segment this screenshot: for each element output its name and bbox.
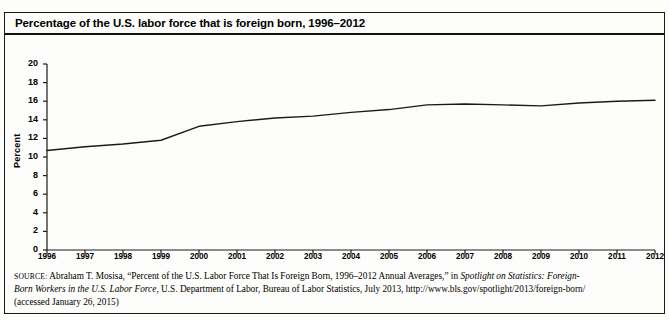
figure-container: Percentage of the U.S. labor force that … xyxy=(0,0,669,320)
x-axis-tick-label: 1998 xyxy=(103,252,143,261)
x-axis-tick-label: 2004 xyxy=(331,252,371,261)
y-axis-tick-label: 20 xyxy=(16,58,38,68)
x-axis-tick-label: 1997 xyxy=(65,252,105,261)
x-axis-tick-label: 2007 xyxy=(445,252,485,261)
source-line1-italic: Spotlight on Statistics: Foreign- xyxy=(460,271,579,281)
source-line2-text: , U.S. Department of Labor, Bureau of La… xyxy=(156,284,585,294)
x-axis-tick-label: 1996 xyxy=(27,252,67,261)
title-bar: Percentage of the U.S. labor force that … xyxy=(5,13,664,35)
y-axis-tick-label: 12 xyxy=(16,132,38,142)
x-axis-tick-label: 2011 xyxy=(597,252,637,261)
x-axis-tick-label: 2006 xyxy=(407,252,447,261)
y-axis-tick-label: 8 xyxy=(16,170,38,180)
page-title: Percentage of the U.S. labor force that … xyxy=(5,17,365,29)
line-chart xyxy=(0,36,669,264)
source-line1-text: Abraham T. Mosisa, “Percent of the U.S. … xyxy=(47,271,460,281)
x-axis-tick-label: 2002 xyxy=(255,252,295,261)
plot-area: Percent 20181614121086420199619971998199… xyxy=(0,36,669,264)
x-axis-tick-label: 2009 xyxy=(521,252,561,261)
y-axis-tick-label: 14 xyxy=(16,114,38,124)
x-axis-tick-label: 2001 xyxy=(217,252,257,261)
source-line2-italic: Born Workers in the U.S. Labor Force xyxy=(14,284,156,294)
x-axis-tick-label: 1999 xyxy=(141,252,181,261)
x-axis-tick-label: 2000 xyxy=(179,252,219,261)
source-note: SOURCE: Abraham T. Mosisa, “Percent of t… xyxy=(14,270,655,310)
source-line3: (accessed January 26, 2015) xyxy=(14,296,655,309)
x-axis-tick-label: 2005 xyxy=(369,252,409,261)
y-axis-tick-label: 18 xyxy=(16,77,38,87)
y-axis-tick-label: 16 xyxy=(16,95,38,105)
y-axis-tick-label: 10 xyxy=(16,151,38,161)
y-axis-tick-label: 2 xyxy=(16,225,38,235)
y-axis-tick-label: 4 xyxy=(16,207,38,217)
x-axis-tick-label: 2010 xyxy=(559,252,599,261)
y-axis-tick-label: 6 xyxy=(16,188,38,198)
source-label: SOURCE: xyxy=(14,272,47,281)
x-axis-tick-label: 2012 xyxy=(635,252,669,261)
x-axis-tick-label: 2008 xyxy=(483,252,523,261)
x-axis-tick-label: 2003 xyxy=(293,252,333,261)
